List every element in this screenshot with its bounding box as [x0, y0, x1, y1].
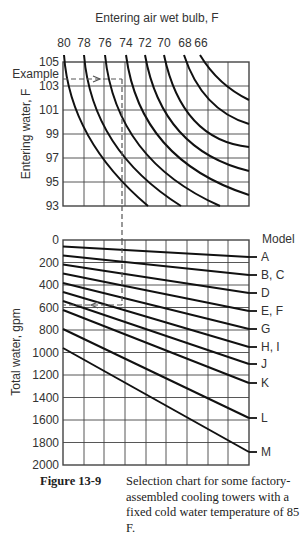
model-label-hi: H, I [261, 340, 280, 354]
figure-caption-text: Selection chart for some factory-assembl… [126, 474, 306, 536]
gpm-tick-1800: 1800 [32, 436, 59, 450]
lower-y-ticks: 0 200 400 600 800 1000 1200 1400 1600 18… [32, 233, 59, 472]
upper-y-axis-title: Entering water, F [19, 89, 33, 180]
wet-bulb-labels: 80 78 76 74 72 70 68 66 [57, 36, 208, 50]
model-lines [63, 247, 249, 453]
y-tick-99: 99 [46, 127, 60, 141]
upper-x-axis-title: Entering air wet bulb, F [95, 11, 218, 25]
wet-bulb-label-78: 78 [77, 36, 91, 50]
curve-74 [126, 55, 249, 195]
model-label-g: G [261, 322, 270, 336]
y-tick-95: 95 [46, 175, 60, 189]
model-legend-title: Model [262, 232, 295, 246]
curve-70 [164, 55, 249, 147]
figure-label: Figure 13-9 [40, 474, 101, 488]
wet-bulb-label-66: 66 [194, 36, 208, 50]
model-ticks [249, 257, 257, 452]
gpm-tick-200: 200 [39, 256, 59, 270]
example-label: Example [12, 67, 59, 81]
gpm-tick-1200: 1200 [32, 368, 59, 382]
gpm-tick-600: 600 [39, 301, 59, 315]
figure-caption: Figure 13-9 Selection chart for some fac… [40, 474, 302, 490]
model-label-ef: E, F [261, 304, 283, 318]
model-line-j [63, 301, 249, 364]
model-line-hi [63, 292, 249, 347]
gpm-tick-1000: 1000 [32, 346, 59, 360]
gpm-tick-800: 800 [39, 323, 59, 337]
gpm-tick-2000: 2000 [32, 458, 59, 472]
model-label-k: K [261, 376, 269, 390]
curve-68 [184, 55, 249, 124]
model-label-m: M [261, 445, 271, 459]
y-tick-101: 101 [39, 103, 59, 117]
wet-bulb-label-76: 76 [98, 36, 112, 50]
gpm-tick-1600: 1600 [32, 413, 59, 427]
model-label-l: L [261, 411, 268, 425]
y-tick-93: 93 [46, 199, 60, 213]
y-tick-103: 103 [39, 79, 59, 93]
model-line-a [63, 247, 249, 258]
gpm-tick-400: 400 [39, 278, 59, 292]
y-tick-97: 97 [46, 151, 60, 165]
wet-bulb-label-72: 72 [138, 36, 152, 50]
lower-y-axis-title: Total water, gpm [9, 308, 23, 395]
model-line-l [63, 329, 249, 418]
wet-bulb-label-80: 80 [57, 36, 71, 50]
model-line-k [63, 310, 249, 383]
model-label-a: A [261, 250, 269, 264]
model-label-d: D [261, 286, 270, 300]
wet-bulb-label-74: 74 [119, 36, 133, 50]
wet-bulb-curves [64, 55, 249, 206]
gpm-tick-1400: 1400 [32, 391, 59, 405]
model-label-bc: B, C [261, 268, 285, 282]
model-label-j: J [261, 357, 267, 371]
model-line-bc [63, 256, 249, 276]
gpm-tick-0: 0 [52, 233, 59, 247]
model-line-m [63, 348, 249, 452]
curve-72 [145, 55, 249, 171]
model-labels: A B, C D E, F G H, I J K L M [261, 250, 285, 459]
wet-bulb-label-68: 68 [178, 36, 192, 50]
lower-grid [63, 240, 249, 465]
wet-bulb-label-70: 70 [157, 36, 171, 50]
